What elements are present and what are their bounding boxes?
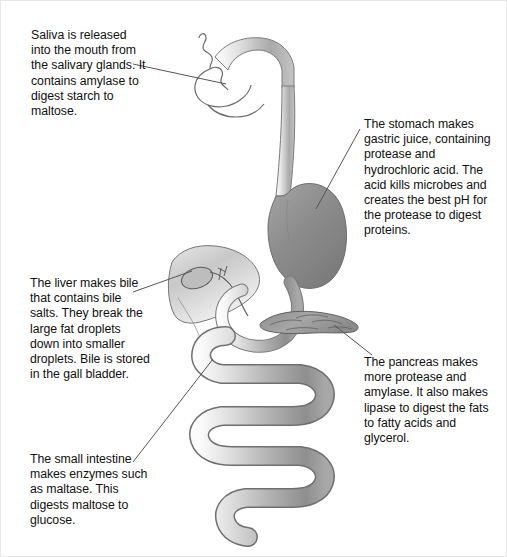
oral-pharynx-tract (215, 38, 294, 88)
pancreas (260, 311, 358, 333)
uvula-icon (210, 67, 228, 90)
stomach (268, 184, 346, 289)
callout-pancreas: The pancreas makes more protease and amy… (364, 355, 494, 446)
lower-jaw-icon (208, 104, 264, 117)
leader-line-stomach (316, 129, 360, 209)
callout-salivary-glands: Saliva is released into the mouth from t… (31, 28, 149, 119)
digestive-system-diagram: Saliva is released into the mouth from t… (0, 0, 507, 557)
oesophagus (276, 86, 295, 196)
callout-stomach: The stomach makes gastric juice, contain… (364, 117, 496, 239)
callout-small-intestine: The small intestine makes enzymes such a… (30, 452, 148, 528)
callout-liver: The liver makes bile that contains bile … (30, 276, 152, 382)
nasal-passage-icon (199, 34, 212, 69)
